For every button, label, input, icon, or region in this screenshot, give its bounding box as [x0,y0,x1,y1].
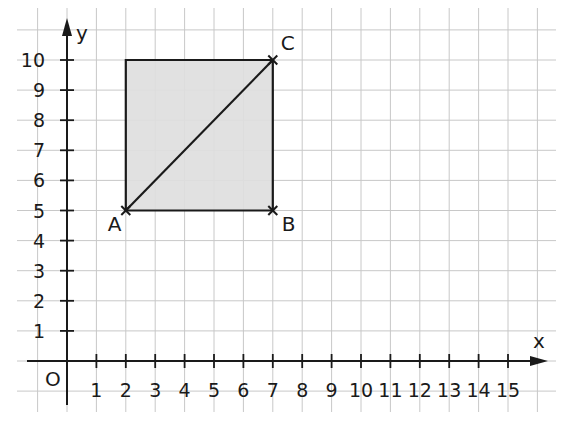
point-c: C [268,31,294,65]
y-tick-label: 9 [33,79,45,101]
y-tick-label: 8 [33,109,45,131]
point-label: A [108,212,122,236]
x-tick-label: 5 [208,379,220,401]
y-tick-label: 5 [33,200,45,222]
coordinate-plane: 12345678910111213141512345678910yxO ABC [0,0,561,425]
x-tick-label: 3 [149,379,161,401]
y-tick-label: 7 [33,139,45,161]
x-tick-label: 8 [296,379,308,401]
point-label: C [281,31,295,55]
x-tick-label: 15 [496,379,520,401]
square-shape [126,60,273,211]
x-tick-label: 4 [179,379,191,401]
origin-label: O [45,367,61,391]
x-tick-label: 2 [120,379,132,401]
y-tick-label: 4 [33,230,45,252]
x-tick-label: 12 [408,379,432,401]
x-tick-label: 10 [349,379,373,401]
y-tick-label: 2 [33,290,45,312]
coordinate-diagram: 12345678910111213141512345678910yxO ABC [0,0,561,425]
y-tick-label: 6 [33,169,45,191]
point-label: B [282,212,296,236]
x-tick-label: 13 [437,379,461,401]
y-tick-label: 1 [33,320,45,342]
x-tick-label: 14 [467,379,491,401]
x-tick-label: 7 [267,379,279,401]
x-axis-arrow-icon [530,356,548,366]
y-tick-label: 10 [21,49,45,71]
y-tick-label: 3 [33,260,45,282]
x-axis-label: x [533,329,545,353]
x-tick-label: 11 [378,379,402,401]
y-axis-label: y [76,21,88,45]
grid-lines [17,8,556,412]
x-tick-label: 1 [90,379,102,401]
x-tick-label: 9 [326,379,338,401]
x-tick-label: 6 [237,379,249,401]
y-axis-arrow-icon [62,18,72,36]
